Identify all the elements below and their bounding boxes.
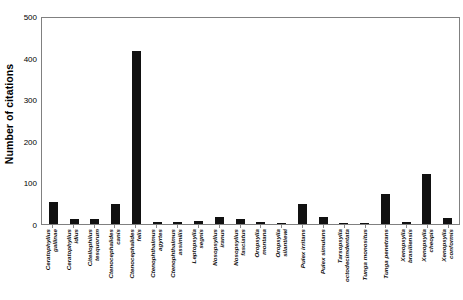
bar-slot <box>126 18 147 224</box>
x-tick-label-line2: felis <box>136 229 143 279</box>
x-tick-label: Tunga monositus <box>362 229 369 280</box>
y-axis-tick-labels: 0100200300400500 <box>14 0 40 300</box>
bar-slot <box>354 18 375 224</box>
x-tick-label-line2: agyrtes <box>157 229 164 278</box>
x-tick-label-line2: montana <box>261 229 268 258</box>
bar-slot <box>85 18 106 224</box>
x-tick-label-line1: Oropsylla <box>274 229 281 258</box>
x-tick-label: Ceratophyllusidius <box>67 229 80 270</box>
bar <box>256 222 265 224</box>
x-axis-tick-labels: CeratophyllusgallinaeCeratophyllusidiusC… <box>41 229 460 300</box>
bar-slot <box>334 18 355 224</box>
x-tick-label: Ceratophyllusgallinae <box>46 229 59 270</box>
x-tick-label-line2: cheopis <box>428 229 435 262</box>
x-label-slot: Ctenocephalidesfelis <box>125 229 146 300</box>
x-tick-label-line2: conformis <box>448 229 455 262</box>
y-tick-label: 500 <box>24 13 37 22</box>
x-label-slot: Tarsopsyllaoctodecimdentata <box>334 229 355 300</box>
x-tick-label: Pulex irritans <box>299 229 306 268</box>
bar-slot <box>251 18 272 224</box>
y-tick-label: 0 <box>33 221 37 230</box>
bar-slot <box>43 18 64 224</box>
x-label-slot: Xenopsyllabrasiliensis <box>396 229 417 300</box>
x-label-slot: Tunga penetrans <box>376 229 397 300</box>
x-tick-label-line2: octodecimdentata <box>344 229 351 282</box>
x-tick-label-line1: Pulex simulans <box>319 229 326 274</box>
bar-slot <box>209 18 230 224</box>
bar-slot <box>375 18 396 224</box>
bar-slot <box>64 18 85 224</box>
x-tick-mark <box>94 225 95 228</box>
x-tick-mark <box>73 225 74 228</box>
bar <box>90 219 99 224</box>
bars-layer <box>42 18 459 224</box>
x-tick-mark <box>260 225 261 228</box>
x-label-slot: Ceratophyllusgallinae <box>42 229 63 300</box>
x-tick-label-line1: Xenopsylla <box>420 229 427 262</box>
x-tick-mark <box>219 225 220 228</box>
bar-slot <box>437 18 458 224</box>
x-tick-label: Xenopsyllabrasiliensis <box>400 229 413 263</box>
bar-slot <box>168 18 189 224</box>
x-tick-label-line1: Ctenocephalides <box>128 229 135 279</box>
x-tick-label: Oropsyllasilantiewi <box>275 229 288 258</box>
x-tick-label-line1: Tunga penetrans <box>382 229 389 279</box>
bar <box>339 223 348 224</box>
x-tick-label-line2: idius <box>73 229 80 270</box>
bar <box>381 194 390 224</box>
x-tick-mark <box>156 225 157 228</box>
x-tick-label-line2: canis <box>115 229 122 279</box>
x-tick-label: Pulex simulans <box>320 229 327 274</box>
x-tick-label: Ctenocephalidesfelis <box>129 229 142 279</box>
bar <box>360 223 369 224</box>
x-tick-label-line2: gallinae <box>52 229 59 270</box>
x-tick-label: Leptopsyllasegnis <box>192 229 205 263</box>
x-tick-label-line2: tesquorum <box>94 229 101 266</box>
bar-slot <box>230 18 251 224</box>
x-tick-mark <box>344 225 345 228</box>
x-tick-label: Nosopsyllusfasciatus <box>233 229 246 266</box>
x-tick-label-line2: segnis <box>198 229 205 263</box>
x-label-slot: Pulex irritans <box>292 229 313 300</box>
bar <box>215 217 224 224</box>
x-tick-label: Oropsyllamontana <box>254 229 267 258</box>
x-tick-mark <box>302 225 303 228</box>
bar <box>443 218 452 224</box>
x-tick-label-line2: brasiliensis <box>407 229 414 263</box>
x-label-slot: Tunga monositus <box>355 229 376 300</box>
x-tick-mark <box>448 225 449 228</box>
bar <box>298 204 307 224</box>
bar-slot <box>417 18 438 224</box>
bar <box>277 223 286 224</box>
x-tick-label-line1: Nosopsyllus <box>232 229 239 266</box>
x-tick-mark <box>198 225 199 228</box>
x-tick-mark <box>406 225 407 228</box>
x-tick-label-line2: silantiewi <box>282 229 289 258</box>
x-tick-mark <box>365 225 366 228</box>
x-label-slot: Ctenophthalmusagyrtes <box>146 229 167 300</box>
x-tick-label-line2: iranus <box>219 229 226 266</box>
x-tick-mark <box>240 225 241 228</box>
x-tick-label: Ctenocephalidescanis <box>108 229 121 279</box>
x-tick-label-line1: Pulex irritans <box>298 229 305 268</box>
x-tick-label: Xenopsyllaconformis <box>442 229 455 262</box>
x-tick-mark <box>323 225 324 228</box>
x-tick-label-line2: fasciatus <box>240 229 247 266</box>
x-label-slot: Pulex simulans <box>313 229 334 300</box>
bar-slot <box>313 18 334 224</box>
x-tick-label: Xenopsyllacheopis <box>421 229 434 262</box>
y-tick-label: 200 <box>24 137 37 146</box>
x-label-slot: Ctenocephalidescanis <box>105 229 126 300</box>
x-label-slot: Leptopsyllasegnis <box>188 229 209 300</box>
bar <box>236 219 245 224</box>
x-label-slot: Ctenophthalmusassimilis <box>167 229 188 300</box>
x-tick-label-line1: Ctenophthalmus <box>149 229 156 278</box>
x-tick-label-line1: Tunga monositus <box>361 229 368 280</box>
bar-slot <box>147 18 168 224</box>
bar-slot <box>292 18 313 224</box>
x-tick-label: Citellophilustesquorum <box>88 229 101 266</box>
x-tick-label-line1: Xenopsylla <box>399 229 406 262</box>
y-tick-label: 100 <box>24 179 37 188</box>
x-tick-label-line1: Ctenocephalides <box>107 229 114 279</box>
x-label-slot: Oropsyllamontana <box>250 229 271 300</box>
